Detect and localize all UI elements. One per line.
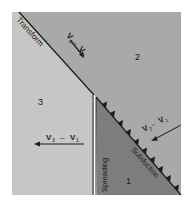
svg-text:3: 3 xyxy=(52,137,55,143)
plate-2-label: 2 xyxy=(135,52,140,62)
svg-text:1: 1 xyxy=(76,137,79,143)
svg-text:–: – xyxy=(60,133,65,142)
spreading-label: Spreading xyxy=(100,158,109,192)
plate-3-label: 3 xyxy=(38,97,43,107)
plate-boundary-diagram: Transform Spreading Subduction 2 3 1 V 2… xyxy=(0,0,193,208)
plate-1-label: 1 xyxy=(126,176,131,186)
